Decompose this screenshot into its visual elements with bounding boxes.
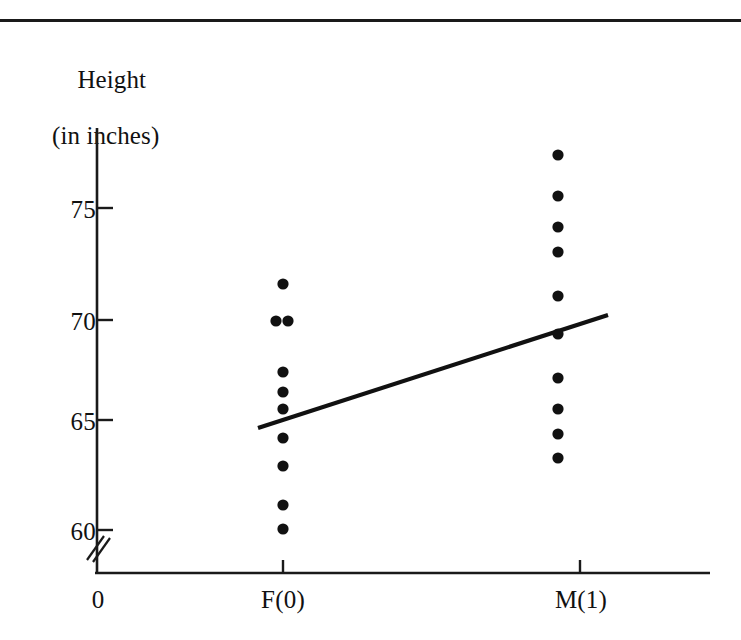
data-series-male	[552, 149, 563, 463]
data-point	[277, 278, 288, 289]
data-point	[270, 315, 281, 326]
data-point	[277, 432, 288, 443]
data-point	[552, 290, 563, 301]
data-point	[552, 372, 563, 383]
data-point	[552, 190, 563, 201]
data-point	[552, 149, 563, 160]
axis-break-icon	[87, 536, 110, 562]
data-point	[552, 403, 563, 414]
data-series-female	[270, 278, 293, 534]
figure-canvas: Height (in inches) 75 70 65 60 0 F(0) M(…	[0, 0, 741, 640]
data-point	[277, 403, 288, 414]
data-point	[552, 246, 563, 257]
data-point	[552, 221, 563, 232]
data-point	[277, 523, 288, 534]
data-point	[552, 452, 563, 463]
scatter-plot	[0, 0, 741, 640]
data-point	[282, 315, 293, 326]
data-point	[277, 366, 288, 377]
data-point	[277, 386, 288, 397]
data-point	[552, 328, 563, 339]
data-point	[277, 460, 288, 471]
data-point	[277, 499, 288, 510]
data-point	[552, 428, 563, 439]
